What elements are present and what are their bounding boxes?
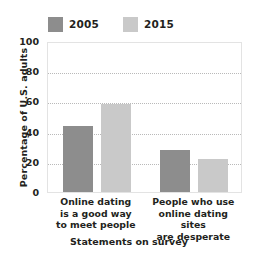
x-axis-title: Statements on survey	[0, 236, 258, 247]
category-label-line: to meet people	[47, 219, 145, 231]
legend-swatch-2015	[123, 17, 138, 32]
y-tick-label: 0	[32, 188, 39, 198]
bar	[63, 126, 93, 192]
y-tick-label: 100	[19, 37, 39, 47]
chart-legend: 2005 2015	[48, 14, 228, 34]
bar	[160, 150, 190, 192]
category-label-line: online dating sites	[145, 208, 243, 231]
legend-entry-2015: 2015	[123, 17, 174, 32]
legend-swatch-2005	[48, 17, 63, 32]
category-label-line: People who use	[145, 196, 243, 208]
y-axis-ticks: 020406080100	[0, 42, 43, 193]
bar	[101, 104, 131, 192]
legend-label-2015: 2015	[144, 19, 174, 30]
y-tick-label: 60	[26, 98, 39, 108]
legend-entry-2005: 2005	[48, 17, 99, 32]
x-axis-category-label: Online datingis a good wayto meet people	[47, 196, 145, 234]
category-label-line: is a good way	[47, 208, 145, 220]
plot-area	[47, 42, 242, 193]
bar-chart: 2005 2015 Percentage of U.S. adults 0204…	[0, 0, 258, 254]
y-tick-label: 40	[26, 128, 39, 138]
bars-layer	[48, 43, 241, 192]
y-tick-label: 80	[26, 67, 39, 77]
x-axis-category-labels: Online datingis a good wayto meet people…	[47, 196, 242, 234]
x-axis-category-label: People who useonline dating sitesare des…	[145, 196, 243, 234]
legend-label-2005: 2005	[69, 19, 99, 30]
category-label-line: Online dating	[47, 196, 145, 208]
bar	[198, 159, 228, 192]
y-tick-label: 20	[26, 158, 39, 168]
